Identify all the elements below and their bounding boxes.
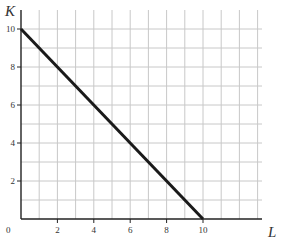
x-tick-label: 2 [55,225,60,235]
y-tick-label: 4 [11,138,16,148]
x-tick-label: 6 [128,225,133,235]
chart: 246810246810 K L 0 [0,0,282,249]
ticks: 246810246810 [6,24,208,235]
x-axis-label: L [267,224,276,240]
grid-lines [21,10,262,219]
x-tick-label: 8 [164,225,169,235]
y-axis-label: K [4,3,16,19]
y-tick-label: 8 [11,62,16,72]
origin-label: 0 [6,225,11,235]
x-tick-label: 4 [92,225,97,235]
x-tick-label: 10 [199,225,209,235]
y-tick-label: 10 [6,24,16,34]
y-tick-label: 6 [11,100,16,110]
y-tick-label: 2 [11,176,16,186]
